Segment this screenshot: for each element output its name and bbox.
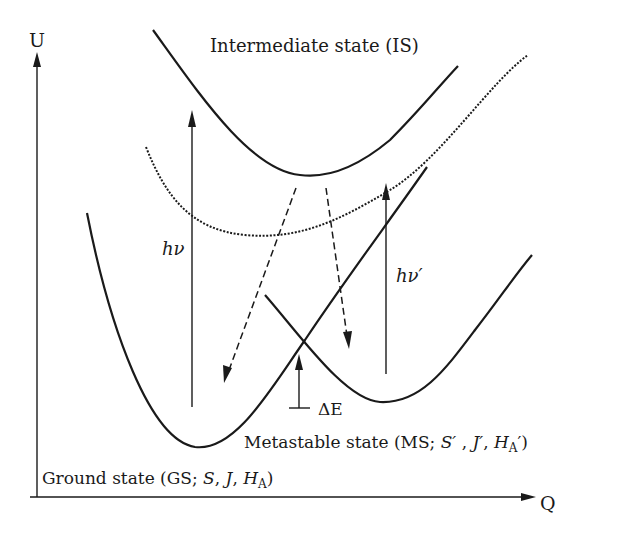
metastable-state-label: Metastable state (MS; S′ , J′, HA′) bbox=[244, 432, 528, 455]
relaxation-gs-arrowhead-icon bbox=[223, 365, 232, 383]
y-axis-arrowhead-icon bbox=[33, 52, 41, 67]
intermediate-state-label: Intermediate state (IS) bbox=[210, 35, 419, 56]
delta-e-label: ΔE bbox=[318, 399, 343, 419]
hv-prime-arrowhead-icon bbox=[382, 183, 390, 200]
ground-state-label: Ground state (GS; S, J, HA) bbox=[42, 468, 273, 491]
hv-arrowhead-icon bbox=[188, 110, 196, 127]
relaxation-to-gs-arrow bbox=[223, 188, 296, 383]
y-axis-label: U bbox=[29, 29, 45, 51]
hv-label: hν bbox=[162, 238, 185, 259]
hv-excitation-arrow bbox=[188, 110, 196, 407]
hv-prime-excitation-arrow bbox=[382, 183, 390, 374]
hv-prime-label: hν′ bbox=[396, 265, 423, 286]
delta-e-arrowhead-icon bbox=[295, 354, 303, 370]
dotted-state-curve bbox=[146, 55, 528, 236]
relaxation-ms-arrowhead-icon bbox=[343, 331, 352, 349]
energy-barrier-arrow bbox=[289, 354, 310, 408]
ground-state-curve bbox=[87, 167, 427, 447]
x-axis-label: Q bbox=[540, 492, 556, 514]
relaxation-to-ms-arrow bbox=[326, 188, 352, 349]
x-axis-arrowhead-icon bbox=[521, 493, 536, 501]
potential-energy-diagram: U Q hν hν′ ΔE Intermediate state (IS) bbox=[0, 0, 633, 541]
